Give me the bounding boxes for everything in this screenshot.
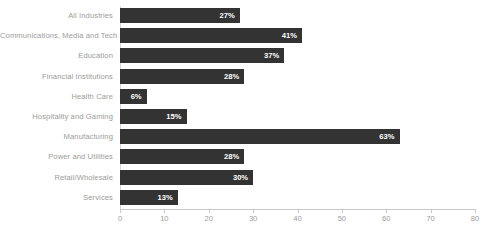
bar: 6% xyxy=(120,89,147,104)
bar-value-label: 63% xyxy=(379,129,394,144)
x-axis-tick-label: 70 xyxy=(416,214,446,223)
x-axis-tick-label: 20 xyxy=(194,214,224,223)
bar: 28% xyxy=(120,149,244,164)
category-label: All Industries xyxy=(0,6,113,26)
bar: 27% xyxy=(120,8,240,23)
x-axis-tick-label: 60 xyxy=(371,214,401,223)
x-axis-tick-label: 30 xyxy=(238,214,268,223)
bar: 28% xyxy=(120,69,244,84)
bar-row: Retail/Wholesale30% xyxy=(0,168,490,188)
x-axis-tick-mark xyxy=(298,209,299,213)
bar: 30% xyxy=(120,170,253,185)
category-label: Power and Utilities xyxy=(0,147,113,167)
bar-value-label: 15% xyxy=(166,109,181,124)
bar: 37% xyxy=(120,48,284,63)
bar-row: Hospitality and Gaming15% xyxy=(0,107,490,127)
x-axis-tick-mark xyxy=(342,209,343,213)
bar-row: Manufacturing63% xyxy=(0,127,490,147)
bar-value-label: 41% xyxy=(282,28,297,43)
category-label: Manufacturing xyxy=(0,127,113,147)
x-axis-tick-label: 50 xyxy=(327,214,357,223)
bar-value-label: 37% xyxy=(264,48,279,63)
bar-row: Communications, Media and Tech41% xyxy=(0,26,490,46)
bar-row: Financial Institutions28% xyxy=(0,67,490,87)
category-label: Hospitality and Gaming xyxy=(0,107,113,127)
bar-row: Health Care6% xyxy=(0,87,490,107)
x-axis-tick-mark xyxy=(386,209,387,213)
bar-row: Education37% xyxy=(0,46,490,66)
bar-row: Services13% xyxy=(0,188,490,208)
category-label: Retail/Wholesale xyxy=(0,168,113,188)
x-axis-tick-mark xyxy=(120,209,121,213)
bar-value-label: 28% xyxy=(224,69,239,84)
bar-value-label: 27% xyxy=(220,8,235,23)
category-label: Education xyxy=(0,46,113,66)
bar-value-label: 28% xyxy=(224,149,239,164)
x-axis-tick-label: 80 xyxy=(460,214,490,223)
x-axis-tick-label: 40 xyxy=(283,214,313,223)
bar-row: Power and Utilities28% xyxy=(0,147,490,167)
x-axis-tick-mark xyxy=(253,209,254,213)
bar-value-label: 30% xyxy=(233,170,248,185)
x-axis-tick-label: 0 xyxy=(105,214,135,223)
x-axis-tick-mark xyxy=(475,209,476,213)
bar-value-label: 13% xyxy=(157,190,172,205)
category-label: Communications, Media and Tech xyxy=(0,26,113,46)
category-label: Health Care xyxy=(0,87,113,107)
x-axis-tick-mark xyxy=(164,209,165,213)
category-label: Financial Institutions xyxy=(0,67,113,87)
bar: 15% xyxy=(120,109,187,124)
x-axis-tick-label: 10 xyxy=(149,214,179,223)
bar-chart: All Industries27%Communications, Media a… xyxy=(0,0,490,232)
bar-value-label: 6% xyxy=(131,89,142,104)
x-axis-tick-mark xyxy=(209,209,210,213)
x-axis-tick-mark xyxy=(431,209,432,213)
category-label: Services xyxy=(0,188,113,208)
bar-row: All Industries27% xyxy=(0,6,490,26)
bar: 41% xyxy=(120,28,302,43)
bar: 63% xyxy=(120,129,400,144)
bar: 13% xyxy=(120,190,178,205)
